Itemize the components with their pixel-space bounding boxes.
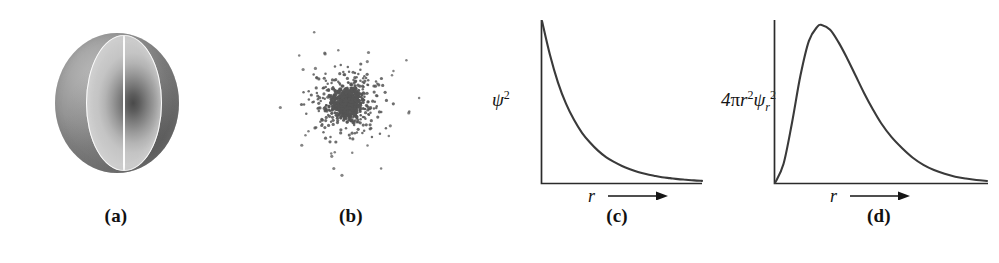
panel-c-x-arrow: [608, 192, 668, 201]
panel-d-svg: [710, 0, 999, 200]
sphere-rim: [55, 33, 179, 173]
orbital-figure: (a) (b) ψ2 r (c) 4πr2ψr2: [0, 0, 999, 263]
panel-d-radial-distribution-plot: 4πr2ψr2 r (d): [710, 0, 999, 263]
panel-c-x-axis-label: r: [588, 186, 595, 207]
electron-cloud-sphere: [55, 33, 179, 173]
panel-b-caption: (b): [321, 205, 381, 227]
panel-c-psi-squared-plot: ψ2 r (c): [480, 0, 710, 263]
panel-b-dot-density: (b): [240, 0, 480, 263]
dot-density-plot: [240, 0, 480, 200]
panel-d-x-arrow: [850, 192, 910, 201]
panel-d-axes: [775, 20, 989, 184]
panel-a-caption: (a): [86, 205, 146, 227]
panel-c-svg: [480, 0, 710, 200]
panel-a-cutaway-sphere: (a): [0, 0, 240, 263]
panel-c-curve: [542, 21, 702, 181]
panel-c-caption: (c): [587, 205, 647, 227]
panel-d-x-axis-label: r: [830, 186, 837, 207]
panel-d-caption: (d): [849, 205, 909, 227]
panel-d-curve: [775, 25, 987, 183]
